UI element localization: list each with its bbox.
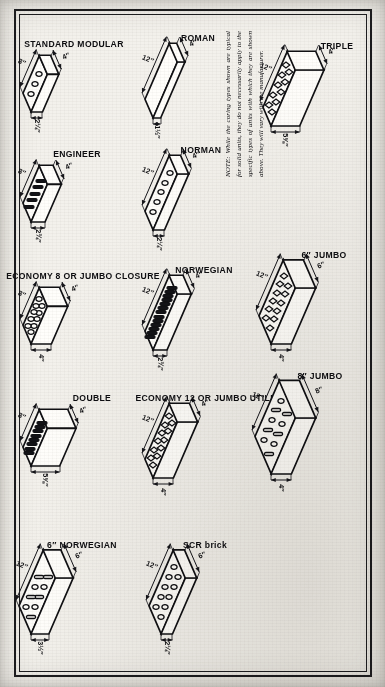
brick-label-jumbo-6: 6″ JUMBO bbox=[301, 249, 346, 259]
brick-core bbox=[28, 451, 29, 452]
brick-label-norwegian: NORWEGIAN bbox=[175, 265, 232, 275]
brick-core bbox=[160, 615, 161, 616]
height-dimension-label: 4″ bbox=[36, 354, 45, 362]
brick-label-norman: NORMAN bbox=[181, 145, 222, 155]
height-dimension-label: 5⅝″ bbox=[40, 473, 49, 487]
brick-label-norwegian-6: 6″ NORWEGIAN bbox=[46, 539, 116, 549]
brick-core bbox=[153, 463, 154, 464]
height-dimension-label: 3½″ bbox=[35, 641, 44, 655]
note-lead: NOTE: bbox=[224, 156, 232, 177]
brick-core bbox=[30, 331, 31, 332]
brick-label-triple: TRIPLE bbox=[320, 41, 353, 51]
height-dimension-label: 4″ bbox=[276, 484, 285, 492]
brick-core bbox=[273, 442, 274, 443]
brick-core bbox=[30, 615, 31, 616]
brick-label-roman: ROMAN bbox=[180, 33, 214, 43]
brick-core bbox=[269, 452, 270, 453]
brick-core bbox=[270, 326, 271, 327]
height-dimension-label: 4″ bbox=[158, 488, 167, 496]
height-dimension-label: 2¾″ bbox=[155, 357, 164, 371]
drawing-canvas: NOTE: While the coring types shown are t… bbox=[13, 14, 373, 674]
height-dimension-label: 2¾″ bbox=[33, 229, 42, 243]
brick-core bbox=[150, 336, 151, 337]
brick-label-standard-modular: STANDARD MODULAR bbox=[24, 38, 124, 48]
brick-label-double: DOUBLE bbox=[72, 392, 110, 402]
height-dimension-label: 5⅝″ bbox=[280, 133, 289, 147]
brick-label-engineer: ENGINEER bbox=[53, 148, 101, 158]
brick-label-jumbo-8: 8″ JUMBO bbox=[297, 370, 342, 380]
drawing-sheet: NOTE: While the coring types shown are t… bbox=[0, 0, 385, 687]
height-dimension-label: 4″ bbox=[276, 354, 285, 362]
brick-label-scr-brick: SCR brick bbox=[183, 539, 227, 549]
